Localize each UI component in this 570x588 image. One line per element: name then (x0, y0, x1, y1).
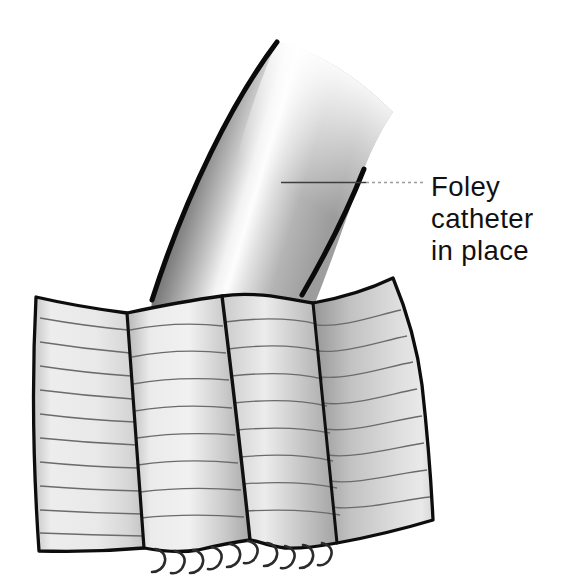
medical-illustration-figure: Foley catheter in place (0, 0, 570, 588)
figure-label-line-3: in place (431, 235, 529, 266)
tissue-wrap (34, 278, 433, 573)
catheter-tube-fade-overlay (210, 42, 393, 318)
figure-label: Foley catheter in place (431, 171, 534, 266)
figure-label-line-1: Foley (431, 171, 500, 202)
figure-label-line-2: catheter (431, 203, 534, 234)
foley-catheter-illustration: Foley catheter in place (0, 0, 570, 588)
